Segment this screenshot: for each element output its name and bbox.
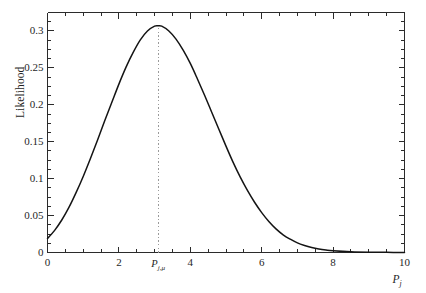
x-axis-title-subscript: j [400,279,402,288]
y-tick-label: 0.2 [30,99,44,110]
plot-canvas [0,0,426,293]
peak-marker-label-subscript: j,μ [158,264,165,272]
x-tick-label: 10 [385,257,425,268]
likelihood-curve [48,26,405,253]
x-tick-label: 0 [28,257,68,268]
y-tick-label: 0.05 [24,210,43,221]
x-axis-title: Pj [393,273,402,288]
x-axis-title-base: P [393,273,400,285]
y-axis-title: Likelihood [14,67,26,118]
y-tick-label: 0.25 [24,62,43,73]
y-axis-title-text: Likelihood [14,67,26,118]
x-tick-label: 6 [242,257,282,268]
y-tick-label: 0.3 [30,25,44,36]
x-tick-label: 8 [313,257,353,268]
likelihood-chart-figure: 00.050.10.150.20.250.3 0246810 Likelihoo… [0,0,426,293]
peak-marker-label: Pj,μ [128,258,188,272]
y-tick-label: 0.15 [24,136,43,147]
y-tick-label: 0.1 [30,173,44,184]
